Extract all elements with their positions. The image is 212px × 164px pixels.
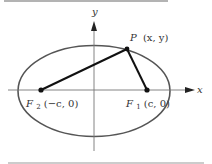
label-f1-subscript: 1 xyxy=(136,103,140,111)
segment-f2-p xyxy=(41,49,127,90)
point-f1 xyxy=(144,87,149,92)
ellipse-diagram: y x P (x, y) F 2 (−c, 0) F 1 (c, 0) xyxy=(0,0,212,164)
label-f1-coords: (c, 0) xyxy=(144,98,170,109)
x-axis-label: x xyxy=(197,84,203,95)
x-axis-arrow-icon xyxy=(185,87,195,93)
label-f1-name: F xyxy=(125,98,134,109)
label-f2: F 2 (−c, 0) xyxy=(25,98,78,111)
label-p-name: P xyxy=(129,32,137,43)
label-f2-coords: (−c, 0) xyxy=(44,98,79,109)
label-p-coords: (x, y) xyxy=(143,32,169,43)
label-f2-name: F xyxy=(25,98,34,109)
segment-p-f1 xyxy=(127,49,147,90)
label-p: P (x, y) xyxy=(129,32,168,43)
point-f2 xyxy=(38,87,43,92)
y-axis-arrow-icon xyxy=(91,21,97,31)
point-p xyxy=(125,47,130,52)
y-axis-label: y xyxy=(91,6,98,17)
label-f2-subscript: 2 xyxy=(36,103,40,111)
